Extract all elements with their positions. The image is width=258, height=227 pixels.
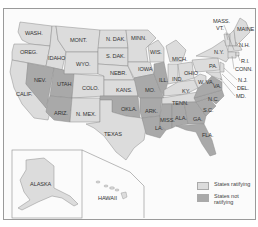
label-miss: MISS. (160, 117, 175, 123)
label-iowa: IOWA (138, 66, 153, 72)
label-calif: CALIF. (16, 91, 33, 97)
hawaii-inset-border-right (130, 172, 144, 186)
label-pa: PA. (209, 63, 218, 69)
label-sdak: S. DAK. (106, 53, 126, 59)
label-okla: OKLA. (121, 106, 138, 112)
label-ind: IND. (172, 76, 183, 82)
label-nh: N.H. (239, 42, 250, 48)
label-mont: MONT. (70, 37, 87, 43)
label-del: DEL. (237, 85, 250, 91)
label-kans: KANS. (116, 87, 133, 93)
label-mass: MASS. (213, 18, 230, 24)
label-colo: COLO. (82, 85, 99, 91)
label-tenn: TENN. (172, 100, 189, 106)
label-nj: N.J. (238, 77, 248, 83)
label-vt: VT. (216, 25, 224, 31)
label-ala: ALA. (175, 115, 187, 121)
label-hawaii: HAWAII (98, 195, 117, 201)
state-new-mexico[interactable] (70, 98, 100, 122)
label-la: LA. (155, 125, 164, 131)
label-nc: N.C. (208, 96, 219, 102)
label-ariz: ARIZ. (54, 110, 68, 116)
label-nebr: NEBR. (110, 70, 127, 76)
legend-item-ratifying: States ratifying (197, 181, 257, 190)
label-ri: R.I. (241, 58, 250, 64)
label-ny: N.Y. (214, 49, 224, 55)
label-wis: WIS. (150, 49, 162, 55)
label-idaho: IDAHO (48, 55, 66, 61)
label-mich: MICH. (172, 56, 188, 62)
state-florida[interactable] (176, 124, 216, 156)
label-nev: NEV. (34, 77, 47, 83)
label-wash: WASH. (25, 30, 43, 36)
label-oreg: OREG. (20, 49, 38, 55)
legend-swatch-ratifying (197, 182, 209, 190)
label-utah: UTAH (57, 81, 71, 87)
label-maine: MAINE (237, 26, 255, 32)
label-va: VA. (213, 83, 222, 89)
label-mo: MO. (145, 87, 156, 93)
label-wva: W. VA. (198, 79, 215, 85)
label-ndak: N. DAK. (106, 36, 126, 42)
label-ohio: OHIO (184, 70, 199, 76)
legend-swatch-not-ratifying (197, 194, 209, 202)
label-conn: CONN. (235, 66, 253, 72)
legend-item-not-ratifying: States not ratifying (197, 193, 257, 205)
legend-label-not-ratifying: States not ratifying (214, 193, 248, 205)
label-ark: ARK. (145, 108, 158, 114)
label-fla: FLA. (202, 132, 214, 138)
label-sc: S.C. (203, 107, 214, 113)
leader-line-del (222, 74, 236, 88)
label-alaska: ALASKA (30, 181, 52, 187)
label-wyo: WYO. (76, 61, 91, 67)
label-minn: MINN. (131, 35, 147, 41)
label-ill: ILL. (159, 77, 168, 83)
label-ky: KY. (182, 88, 191, 94)
label-texas: TEXAS (104, 131, 122, 137)
label-nmex: N. MEX. (76, 111, 97, 117)
state-rhode-island[interactable] (236, 52, 239, 56)
label-ga: GA. (193, 116, 203, 122)
legend-label-ratifying: States ratifying (214, 181, 250, 187)
label-md: MD. (236, 93, 246, 99)
state-arizona[interactable] (46, 96, 72, 122)
map-legend: States ratifying States not ratifying (197, 181, 257, 208)
state-new-jersey[interactable] (220, 62, 224, 72)
